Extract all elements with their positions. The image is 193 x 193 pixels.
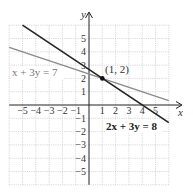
point-label: (1, 2) <box>105 63 129 76</box>
x-tick-label: −3 <box>44 105 55 116</box>
x-tick-label: 1 <box>100 105 105 116</box>
y-tick-label: −1 <box>75 113 86 124</box>
x-tick-labels: −5 −4 −3 −2 −1 1 2 3 4 5 <box>17 105 158 116</box>
y-tick-label: 1 <box>81 86 86 97</box>
y-tick-label: 5 <box>81 33 86 44</box>
y-tick-label: −4 <box>75 153 86 164</box>
y-tick-label: 3 <box>81 60 86 71</box>
intersection-point <box>100 76 105 81</box>
x-tick-label: −2 <box>57 105 68 116</box>
x-tick-label: −4 <box>30 105 41 116</box>
x-axis-label: x <box>177 106 183 118</box>
y-tick-label: −3 <box>75 139 86 150</box>
y-tick-label: −5 <box>75 166 86 177</box>
equation-label-line2: 2x + 3y = 8 <box>106 120 158 132</box>
x-tick-label: −5 <box>17 105 28 116</box>
x-tick-label: 2 <box>113 105 118 116</box>
x-tick-label: 4 <box>140 105 145 116</box>
y-tick-label: 2 <box>81 73 86 84</box>
y-axis-label: y <box>80 8 86 20</box>
x-tick-label: 5 <box>153 105 158 116</box>
y-tick-label: −2 <box>75 126 86 137</box>
coordinate-plane: −5 −4 −3 −2 −1 1 2 3 4 5 5 4 3 2 1 −1 −2… <box>0 0 193 193</box>
x-tick-label: 3 <box>126 105 131 116</box>
y-tick-label: 4 <box>81 46 86 57</box>
equation-label-line1: x + 3y = 7 <box>12 66 58 78</box>
